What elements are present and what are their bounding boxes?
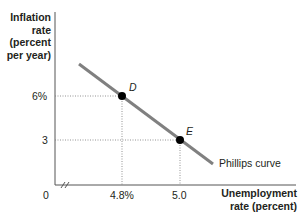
x-axis-label-line: rate (percent) bbox=[221, 200, 297, 213]
phillips-curve-label: Phillips curve bbox=[219, 157, 281, 169]
phillips-curve-line bbox=[79, 64, 213, 164]
y-axis-label-line: (percent bbox=[0, 36, 51, 49]
point-d-label: D bbox=[129, 81, 137, 93]
point-e-label: E bbox=[186, 125, 193, 137]
y-tick-3: 3 bbox=[42, 134, 48, 146]
y-axis-label-line: per year) bbox=[0, 49, 51, 62]
x-tick-5-0: 5.0 bbox=[172, 189, 187, 201]
y-axis-label-line: rate bbox=[0, 24, 51, 37]
x-tick-4-8: 4.8% bbox=[110, 189, 134, 201]
point-e-marker bbox=[176, 136, 184, 144]
x-axis-label-line: Unemployment bbox=[221, 187, 297, 200]
y-axis-label: Inflation rate (percent per year) bbox=[0, 11, 51, 61]
y-axis-label-line: Inflation bbox=[0, 11, 51, 24]
y-tick-6: 6% bbox=[32, 90, 47, 102]
origin-label: 0 bbox=[43, 189, 49, 201]
point-d-marker bbox=[118, 92, 126, 100]
x-axis-label: Unemployment rate (percent) bbox=[221, 187, 297, 212]
